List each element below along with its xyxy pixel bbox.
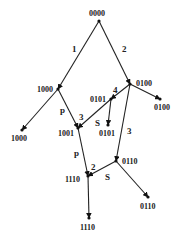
edge-label: 4 — [113, 85, 118, 95]
node-label: 0000 — [89, 9, 105, 18]
node-dot-n1001 — [76, 126, 79, 129]
edge-n1110-n1110leaf — [88, 176, 89, 218]
node-label: 1000 — [11, 134, 27, 143]
edge-label: 2 — [122, 44, 127, 54]
node-label: 0110 — [122, 157, 138, 166]
node-dot-n0100leaf — [158, 97, 161, 100]
node-dot-n0000 — [97, 19, 100, 22]
node-dot-n0101leaf — [106, 123, 109, 126]
edge-label: S — [105, 172, 110, 182]
node-label: 0110 — [140, 202, 156, 211]
node-dot-n1110 — [86, 174, 89, 177]
node-dot-n0110leaf — [146, 195, 149, 198]
edge-n0100-n0110 — [116, 84, 130, 161]
nodes — [20, 19, 161, 219]
node-dot-n1000 — [56, 87, 59, 90]
node-label: 1000 — [37, 85, 53, 94]
node-label: 1110 — [80, 223, 95, 232]
edge-label: 1 — [72, 44, 77, 54]
edge-n1000-n1000leaf — [22, 89, 58, 130]
node-label: 0100 — [136, 79, 152, 88]
edge-n0101-n0101leaf — [108, 99, 111, 125]
node-label: 0101 — [90, 95, 106, 104]
edge-label: S — [95, 118, 100, 128]
edge-label: 2 — [91, 162, 96, 172]
node-dot-n1000leaf — [20, 128, 23, 131]
edge-n1001-n1110 — [78, 128, 88, 176]
node-dot-n0101 — [109, 97, 112, 100]
node-label: 0100 — [154, 103, 170, 112]
edge-label: p — [74, 148, 79, 158]
edge-label: 3 — [79, 112, 84, 122]
node-label: 0101 — [99, 129, 115, 138]
edge-n0000-n1000 — [58, 21, 99, 89]
node-dot-n1110leaf — [87, 216, 90, 219]
edge-label: 3 — [127, 126, 132, 136]
edge-label: p — [60, 105, 65, 115]
labels: 1243pS3pS0000100001000101100101011000010… — [11, 9, 170, 232]
node-label: 1110 — [65, 175, 80, 184]
edges — [22, 21, 160, 218]
edge-n0110-n0110leaf — [116, 161, 148, 197]
node-dot-n0100 — [128, 82, 131, 85]
node-dot-n0110 — [114, 159, 117, 162]
state-diagram: 1243pS3pS0000100001000101100101011000010… — [0, 0, 181, 242]
node-label: 1001 — [58, 129, 74, 138]
